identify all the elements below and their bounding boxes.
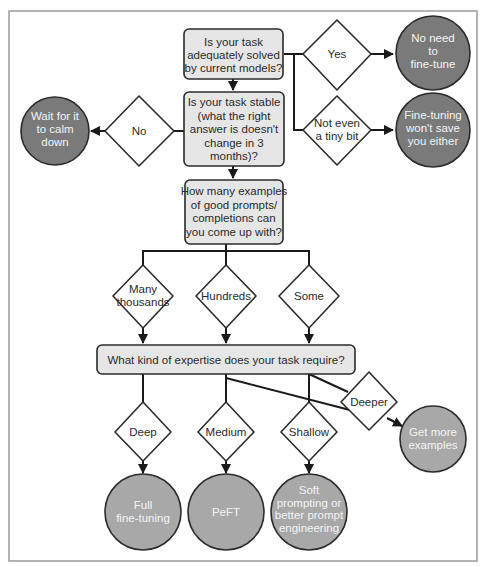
flowchart-canvas: Is your taskadequately solvedby current …: [0, 0, 484, 566]
question-box-task-stable: Is your task stable(what the rightanswer…: [184, 92, 284, 166]
svg-text:Hundreds: Hundreds: [201, 290, 251, 302]
arrow-deeper-to-getmore: [387, 418, 402, 426]
svg-text:Not evena tiny bit: Not evena tiny bit: [314, 117, 360, 142]
outcome-peft: PeFT: [188, 474, 264, 550]
outcome-soft-prompting: Softprompting orbetter promptengineering: [271, 474, 347, 550]
question-box-how-many-examples: How many examplesof good prompts/complet…: [181, 180, 288, 244]
decision-yes: Yes: [303, 20, 371, 90]
line-q1-branch: [284, 54, 303, 130]
svg-text:PeFT: PeFT: [212, 506, 240, 518]
question-box-task-solved: Is your taskadequately solvedby current …: [184, 29, 283, 79]
outcome-full-fine-tuning: Fullfine-tuning: [105, 474, 181, 550]
line-shallow-to-deeper: [309, 374, 348, 392]
svg-text:Get moreexamples: Get moreexamples: [408, 426, 457, 451]
outcome-fine-tuning-wont-save: Fine-tuningwon't saveyou either: [396, 93, 470, 167]
decision-hundreds: Hundreds: [196, 265, 256, 328]
outcome-wait-to-calm-down: Wait for itto calmdown: [21, 97, 89, 165]
svg-text:How many examplesof good promp: How many examplesof good prompts/complet…: [181, 185, 288, 238]
decision-not-even-a-tiny-bit: Not evena tiny bit: [303, 96, 371, 165]
outcome-get-more-examples: Get moreexamples: [400, 406, 466, 472]
decision-shallow: Shallow: [281, 402, 337, 461]
decision-some: Some: [279, 265, 339, 328]
svg-text:Deeper: Deeper: [350, 396, 388, 408]
svg-text:No: No: [132, 125, 147, 137]
decision-deep: Deep: [115, 402, 171, 461]
decision-many-thousands: Manythousands: [113, 265, 173, 328]
svg-text:Medium: Medium: [206, 426, 247, 438]
svg-text:Fine-tuningwon't saveyou eithe: Fine-tuningwon't saveyou either: [404, 109, 462, 147]
decision-no: No: [105, 96, 174, 166]
decision-deeper: Deeper: [341, 372, 397, 430]
svg-text:Yes: Yes: [328, 48, 347, 60]
question-box-expertise: What kind of expertise does your task re…: [97, 345, 355, 374]
line-medium-to-deeper: [226, 378, 350, 410]
svg-text:Deep: Deep: [129, 426, 157, 438]
svg-text:Shallow: Shallow: [289, 426, 330, 438]
svg-text:What kind of expertise does yo: What kind of expertise does your task re…: [107, 354, 344, 366]
decision-medium: Medium: [198, 402, 254, 461]
svg-text:Some: Some: [294, 290, 324, 302]
outcome-no-need-to-fine-tune: No needtofine-tune: [396, 16, 470, 90]
